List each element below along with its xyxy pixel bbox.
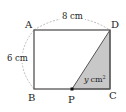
top-dimension-label: 8 cm [62,11,83,21]
left-dimension-label: 6 cm [7,53,28,63]
vertex-label-c: C [109,90,117,101]
area-variable: y [83,75,89,84]
vertex-label-d: D [111,19,119,30]
vertex-label-p: P [68,94,75,105]
vertex-label-b: B [28,92,35,103]
point-p-marker [71,88,74,91]
area-label: ycm2 [83,74,106,84]
vertex-label-a: A [24,19,33,30]
area-exponent: 2 [103,74,106,80]
geometry-diagram: A D B P C 8 cm 6 cm ycm2 [0,0,126,112]
area-unit: cm [91,75,103,84]
